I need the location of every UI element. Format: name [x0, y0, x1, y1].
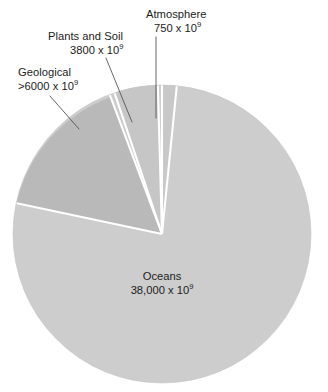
slice-label-oceans-title: Oceans [104, 269, 220, 283]
callout-atmosphere-value-mantissa: 750 x 10 [154, 22, 197, 34]
callout-plants-and-soil-value-exponent: 9 [119, 42, 123, 51]
callout-geological-value: >6000 x 109 [18, 80, 78, 94]
callout-atmosphere-value-exponent: 9 [197, 20, 201, 29]
callout-geological-title: Geological [18, 66, 78, 80]
pie-chart-canvas [0, 0, 328, 392]
callout-plants-and-soil-title: Plants and Soil [48, 30, 124, 44]
callout-plants-and-soil-value: 3800 x 109 [48, 44, 124, 58]
callout-plants-and-soil: Plants and Soil 3800 x 109 [48, 30, 124, 57]
pie-chart-figure: Atmosphere 750 x 109 Plants and Soil 380… [0, 0, 328, 392]
callout-plants-and-soil-value-mantissa: 3800 x 10 [70, 44, 119, 56]
slice-label-oceans-value-mantissa: 38,000 x 10 [131, 284, 189, 296]
callout-atmosphere-value: 750 x 109 [146, 22, 207, 36]
callout-geological-value-exponent: 9 [74, 78, 78, 87]
callout-atmosphere: Atmosphere 750 x 109 [146, 8, 207, 35]
callout-geological-value-mantissa: >6000 x 10 [18, 80, 74, 92]
slice-label-oceans-value-exponent: 9 [189, 282, 193, 291]
slice-label-oceans: Oceans 38,000 x 109 [104, 269, 220, 297]
callout-geological: Geological >6000 x 109 [18, 66, 78, 93]
slice-label-oceans-value: 38,000 x 109 [104, 283, 220, 297]
